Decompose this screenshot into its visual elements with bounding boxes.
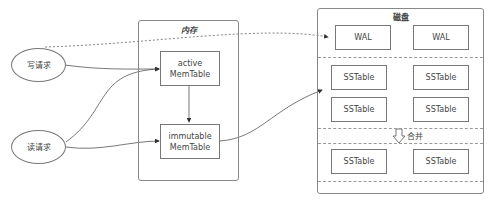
sstable-box-5: SSTable — [331, 149, 387, 174]
wal-box-2: WAL — [413, 25, 469, 50]
disk-divider-3 — [318, 143, 483, 144]
write-request-label: 写请求 — [27, 60, 51, 71]
immutable-memtable-line2: MemTable — [168, 142, 211, 153]
sstable-box-6: SSTable — [413, 149, 469, 174]
disk-divider-1 — [318, 57, 483, 58]
sstable-box-3: SSTable — [331, 97, 387, 122]
merge-label: 合并 — [407, 131, 423, 142]
sstable-box-2: SSTable — [413, 65, 469, 90]
memory-title: 内存 — [138, 25, 239, 36]
disk-title: 磁盘 — [317, 12, 484, 23]
immutable-memtable-box: immutable MemTable — [160, 124, 220, 159]
read-request-node: 读请求 — [11, 130, 66, 164]
disk-divider-4 — [318, 181, 483, 182]
wal-box-1: WAL — [335, 25, 391, 50]
immutable-memtable-line1: immutable — [168, 131, 211, 142]
sstable-box-1: SSTable — [331, 65, 387, 90]
read-request-label: 读请求 — [27, 142, 51, 153]
write-request-node: 写请求 — [11, 48, 66, 82]
active-memtable-line1: active — [170, 58, 210, 69]
active-memtable-line2: MemTable — [170, 69, 210, 80]
active-memtable-box: active MemTable — [160, 51, 220, 86]
disk-divider-2 — [318, 128, 483, 129]
sstable-box-4: SSTable — [413, 97, 469, 122]
